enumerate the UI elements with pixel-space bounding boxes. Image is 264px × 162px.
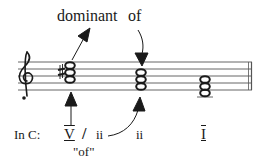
arrow-v-to-chord-icon (65, 92, 77, 125)
slash-symbol: / (82, 126, 86, 142)
arrow-to-dominant-icon (72, 28, 90, 60)
dominant-annotation: dominant (57, 8, 117, 24)
key-label: In C: (14, 128, 40, 141)
chord-i (197, 76, 213, 97)
roman-numeral-i: I (201, 127, 206, 142)
staff-lines (18, 62, 252, 90)
of-caption: "of" (73, 145, 94, 158)
roman-numeral-ii-target: ii (96, 128, 103, 141)
chord-v-of-ii (65, 62, 75, 83)
arrow-of-to-ii-chord-icon (135, 30, 148, 66)
roman-numeral-v: V (64, 127, 75, 142)
chord-ii (136, 69, 146, 90)
sharp-icon (58, 64, 65, 79)
of-annotation: of (128, 8, 141, 24)
roman-numeral-ii: ii (136, 128, 143, 141)
